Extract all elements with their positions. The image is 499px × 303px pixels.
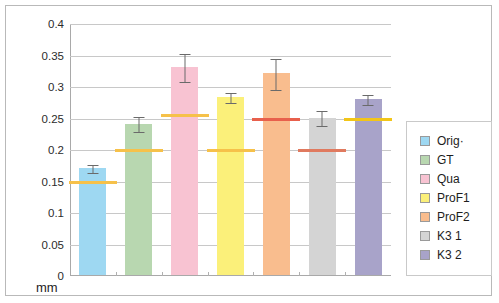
error-bar [368,95,369,105]
y-axis-labels: 0.40.350.30.250.20.150.10.050 [14,24,64,276]
legend-item[interactable]: K3 1 [420,226,491,245]
bar-fill [125,124,152,275]
legend-item-label: ProF1 [437,191,470,205]
legend-item-label: K3 1 [437,229,462,243]
error-bar-cap-bottom [271,90,282,91]
legend-item-label: K3 2 [437,248,462,262]
bar-fill [309,118,336,276]
gridline [70,24,391,25]
x-axis-tick [116,272,117,276]
y-axis-tick-label: 0.15 [42,176,64,188]
reference-marker-line [69,181,117,184]
chart-legend: Orig·GTQuaProF1ProF2K3 1K3 2 [406,121,492,276]
bar [217,97,244,275]
legend-item[interactable]: GT [420,150,491,169]
x-axis-title: mm [36,280,58,295]
error-bar-cap-top [271,59,282,60]
error-bar [92,165,93,173]
error-bar [230,93,231,103]
legend-swatch-icon [420,174,430,184]
legend-swatch-icon [420,250,430,260]
bar-fill [263,73,290,275]
error-bar [322,111,323,126]
plot-area [70,24,391,276]
gridline [70,56,391,57]
error-bar-cap-top [317,111,328,112]
reference-marker-line [252,118,300,121]
legend-swatch-icon [420,193,430,203]
error-bar [276,59,277,91]
y-axis-tick-label: 0.25 [42,113,64,125]
x-axis-tick [208,272,209,276]
legend-swatch-icon [420,231,430,241]
bar [309,118,336,276]
bar-fill [217,97,244,275]
y-axis-tick-label: 0.3 [48,81,64,93]
reference-marker-line [344,118,392,121]
y-axis-tick-label: 0.2 [48,144,64,156]
reference-marker-line [115,149,163,152]
legend-item[interactable]: K3 2 [420,245,491,264]
y-axis-tick-label: 0.35 [42,50,64,62]
error-bar-cap-bottom [317,126,328,127]
legend-item-label: Orig· [437,134,464,148]
error-bar-cap-bottom [225,103,236,104]
legend-item-label: ProF2 [437,210,470,224]
y-axis-tick-label: 0.4 [48,18,64,30]
legend-swatch-icon [420,136,430,146]
chart-frame: 0.40.350.30.250.20.150.10.050 mm Orig·GT… [5,5,492,296]
reference-marker-line [298,149,346,152]
legend-item[interactable]: ProF1 [420,188,491,207]
bar [263,73,290,275]
bar-fill [79,168,106,275]
y-axis-tick-label: 0.05 [42,239,64,251]
legend-swatch-icon [420,212,430,222]
error-bar [184,54,185,82]
bar [355,99,382,275]
bar [171,67,198,275]
x-axis-tick [345,272,346,276]
y-axis-tick-label: 0.1 [48,207,64,219]
reference-marker-line [161,114,209,117]
legend-item[interactable]: Qua [420,169,491,188]
bar-fill [355,99,382,275]
error-bar-cap-top [87,165,98,166]
error-bar [138,117,139,132]
x-axis-line [70,275,391,276]
legend-item[interactable]: ProF2 [420,207,491,226]
error-bar-cap-top [179,54,190,55]
gridline [70,87,391,88]
error-bar-cap-top [363,95,374,96]
error-bar-cap-bottom [133,132,144,133]
x-axis-tick [299,272,300,276]
bar [125,124,152,275]
legend-swatch-icon [420,155,430,165]
error-bar-cap-bottom [363,105,374,106]
error-bar-cap-top [133,117,144,118]
legend-item-label: Qua [437,172,460,186]
error-bar-cap-bottom [179,82,190,83]
bar [79,168,106,275]
legend-item-label: GT [437,153,454,167]
y-axis-tick-label: 0 [58,270,64,282]
error-bar-cap-bottom [87,173,98,174]
reference-marker-line [207,149,255,152]
error-bar-cap-top [225,93,236,94]
legend-item[interactable]: Orig· [420,131,491,150]
bar-fill [171,67,198,275]
x-axis-tick [162,272,163,276]
x-axis-tick [253,272,254,276]
